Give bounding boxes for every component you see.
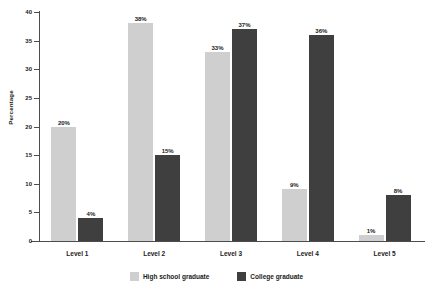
bar[interactable]: 20% [51,127,76,242]
bar-value-label: 4% [87,211,96,217]
bar-value-label: 36% [315,28,327,34]
bar-value-label: 15% [162,148,174,154]
legend-item[interactable]: High school graduate [130,272,209,281]
x-axis-label: Level 1 [66,250,88,257]
bar[interactable]: 4% [78,218,103,241]
bar-group: 1%8% [359,12,411,241]
bar-group: 20%4% [51,12,103,241]
bar-value-label: 37% [238,22,250,28]
bar-value-label: 33% [211,45,223,51]
bar[interactable]: 8% [386,195,411,241]
y-tick-mark [34,127,39,128]
bar[interactable]: 36% [309,35,334,241]
x-axis-label: Level 4 [297,250,319,257]
bar[interactable]: 15% [155,155,180,241]
bar-value-label: 1% [367,228,376,234]
y-tick-label: 25 [25,95,32,101]
y-tick-label: 5 [29,209,32,215]
chart-legend: High school graduateCollege graduate [0,272,433,281]
bar-group: 9%36% [282,12,334,241]
y-tick-mark [34,212,39,213]
bar[interactable]: 33% [205,52,230,241]
y-axis-title: Percentage [7,73,14,143]
bar-value-label: 38% [135,16,147,22]
bar[interactable]: 1% [359,235,384,241]
y-tick-label: 15 [25,152,32,158]
bar[interactable]: 9% [282,189,307,241]
y-tick-mark [34,12,39,13]
legend-swatch [130,272,139,281]
y-tick-label: 0 [29,238,32,244]
y-tick-label: 10 [25,181,32,187]
legend-swatch [237,272,246,281]
y-tick-mark [34,69,39,70]
bar-group: 38%15% [128,12,180,241]
bar-value-label: 8% [394,188,403,194]
y-tick-label: 20 [25,124,32,130]
x-axis-label: Level 5 [374,250,396,257]
y-tick-label: 40 [25,9,32,15]
y-tick-label: 35 [25,38,32,44]
y-tick-mark [34,41,39,42]
y-tick-mark [34,155,39,156]
bar-value-label: 20% [58,120,70,126]
y-tick-mark [34,184,39,185]
legend-label: College graduate [250,273,303,280]
y-tick-mark [34,241,39,242]
bar[interactable]: 38% [128,23,153,241]
bar-chart: Percentage 0510152025303540 20%4%38%15%3… [0,0,433,291]
plot-area: 0510152025303540 20%4%38%15%33%37%9%36%1… [39,12,423,241]
legend-label: High school graduate [143,273,209,280]
x-axis-label: Level 2 [143,250,165,257]
bar-group: 33%37% [205,12,257,241]
x-axis-line [31,241,425,242]
y-tick-label: 30 [25,66,32,72]
legend-item[interactable]: College graduate [237,272,303,281]
bar-value-label: 9% [290,182,299,188]
x-axis-label: Level 3 [220,250,242,257]
bar[interactable]: 37% [232,29,257,241]
y-tick-mark [34,98,39,99]
